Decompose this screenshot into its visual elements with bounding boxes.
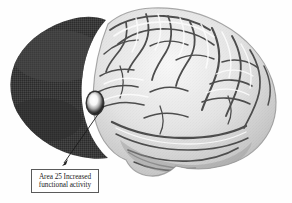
brain-body	[93, 8, 276, 176]
caption-line-2: functional activity	[39, 181, 91, 189]
brain-figure: Area 25 Increased functional activity	[0, 0, 292, 203]
frontal-shaded-region	[6, 17, 108, 159]
area-25-hotspot	[86, 91, 105, 116]
annotation-caption-box: Area 25 Increased functional activity	[31, 169, 99, 193]
